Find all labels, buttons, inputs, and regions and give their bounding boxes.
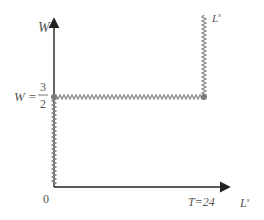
wage-denominator: 2 [40, 97, 46, 111]
wage-label-prefix: W = [14, 89, 37, 104]
x-axis-label: Ls [239, 196, 250, 210]
supply-vertical-upper-segment [202, 15, 206, 97]
kink-point-right [201, 94, 207, 100]
curve-label-main: L [211, 12, 218, 24]
labor-supply-diagram: W Ls W = 3 2 0 T=24 Ls [0, 0, 264, 220]
y-axis-label: W [38, 20, 51, 35]
supply-horizontal-segment [54, 95, 204, 99]
curve-label-sup: s [218, 11, 221, 19]
origin-label: 0 [43, 192, 49, 206]
kink-point-left [51, 94, 57, 100]
time-endowment-label: T=24 [188, 195, 215, 209]
curve-label: Ls [211, 11, 221, 24]
labor-supply-curve [52, 15, 206, 185]
x-axis-label-sup: s [247, 196, 250, 204]
wage-numerator: 3 [40, 80, 46, 94]
